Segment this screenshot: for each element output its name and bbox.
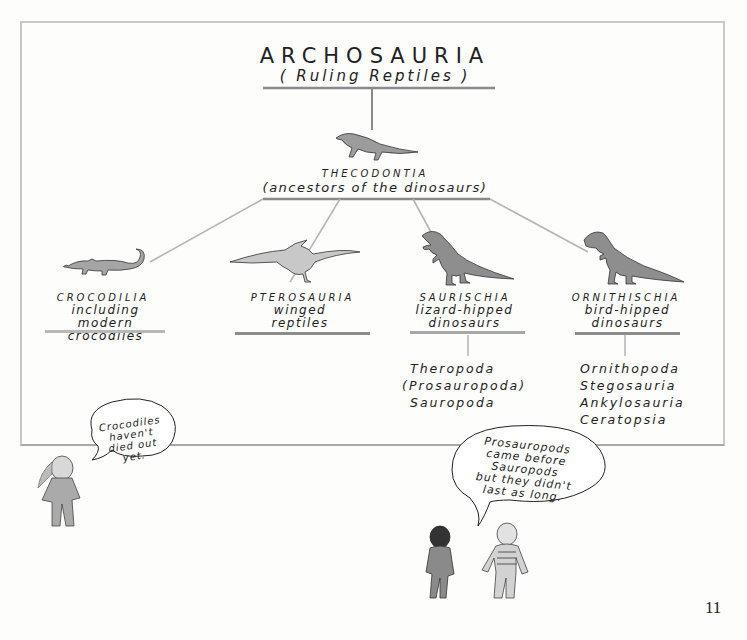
- ornithischia-subgroups: Ornithopoda Stegosauria Ankylosauria Cer…: [580, 360, 685, 428]
- thecodont-icon: [336, 134, 418, 161]
- ancestor-description: (ancestors of the dinosaurs): [250, 181, 500, 194]
- pterosauria-description: winged reptiles: [250, 304, 350, 330]
- pterosauria-underline: [235, 332, 370, 335]
- ornithischia-underline: [575, 332, 680, 335]
- pterosauria-name: PTEROSAURIA: [230, 292, 375, 303]
- subgroup-item: Ankylosauria: [580, 394, 685, 411]
- child-right-figure: [482, 523, 528, 598]
- subgroup-item: Ornithopoda: [580, 360, 685, 377]
- subgroup-item: Stegosauria: [580, 377, 685, 394]
- child-middle-figure: [426, 526, 454, 598]
- ornithischia-name: ORNITHISCHIA: [566, 292, 686, 303]
- saurischia-underline: [410, 331, 525, 334]
- tyrannosaur-icon: [422, 232, 514, 286]
- subgroup-item: (Prosauropoda): [402, 377, 526, 394]
- crocodilia-name: CROCODILIA: [38, 292, 168, 303]
- subgroup-item: Ceratopsia: [580, 411, 685, 428]
- iguanodon-icon: [584, 232, 684, 284]
- ancestor-name: THECODONTIA: [260, 168, 490, 179]
- root-subtitle: ( Ruling Reptiles ): [230, 67, 520, 85]
- child-left-figure: [38, 456, 80, 526]
- crocodile-icon: [63, 249, 144, 275]
- crocodilia-underline: [45, 330, 165, 333]
- saurischia-name: SAURISCHIA: [400, 292, 530, 303]
- page-number: 11: [705, 598, 721, 618]
- crocodilia-description: including modern crocodiles: [38, 304, 173, 343]
- subgroup-item: Theropoda: [402, 360, 526, 377]
- saurischia-description: lizard-hipped dinosaurs: [402, 304, 527, 330]
- ornithischia-description: bird-hipped dinosaurs: [570, 304, 685, 330]
- pterosaur-icon: [230, 240, 360, 282]
- saurischia-subgroups: Theropoda (Prosauropoda) Sauropoda: [402, 360, 526, 411]
- root-title: ARCHOSAURIA: [230, 44, 520, 68]
- subgroup-item: Sauropoda: [402, 394, 526, 411]
